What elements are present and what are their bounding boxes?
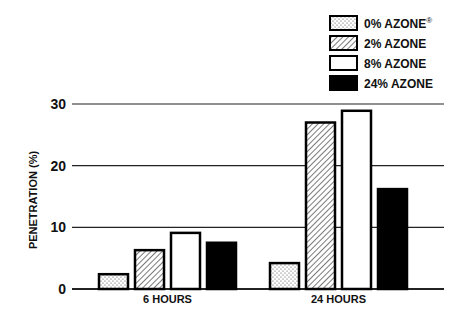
- legend-swatch-white: [330, 56, 357, 70]
- legend-label: 8% AZONE: [364, 57, 426, 71]
- bar-dots: [270, 263, 299, 289]
- x-category-label: 24 HOURS: [311, 293, 366, 305]
- x-category-label: 6 HOURS: [143, 293, 192, 305]
- legend-label: 2% AZONE: [364, 37, 426, 51]
- bar-white: [171, 233, 200, 289]
- y-tick-labels: 0102030: [50, 96, 66, 297]
- legend-swatch-hatch: [330, 36, 357, 50]
- legend-swatch-dots: [330, 16, 357, 30]
- bar-dots: [99, 274, 128, 289]
- x-category-labels: 6 HOURS24 HOURS: [143, 293, 366, 305]
- legend-swatch-black: [330, 76, 357, 90]
- legend: 0% AZONE®2% AZONE8% AZONE24% AZONE: [330, 16, 433, 91]
- y-tick-label: 10: [50, 219, 66, 235]
- legend-label: 0% AZONE®: [364, 16, 432, 31]
- bar-white: [342, 111, 371, 289]
- y-tick-label: 0: [58, 281, 66, 297]
- y-tick-label: 20: [50, 158, 66, 174]
- bar-black: [207, 243, 236, 289]
- bar-chart: 0102030 PENETRATION (%) 6 HOURS24 HOURS …: [0, 0, 456, 317]
- bar-hatch: [306, 123, 335, 290]
- bar-black: [378, 189, 407, 289]
- y-tick-label: 30: [50, 96, 66, 112]
- bars: [99, 111, 407, 289]
- legend-label: 24% AZONE: [364, 77, 433, 91]
- bar-hatch: [135, 250, 164, 289]
- y-axis-label: PENETRATION (%): [27, 151, 39, 250]
